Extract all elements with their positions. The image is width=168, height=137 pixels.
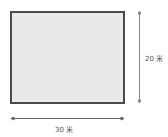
width-label: 30 米 [55,124,73,134]
dimension-arrows [0,0,168,137]
height-label: 20 米 [145,53,163,63]
height-dimension-arrow [138,11,141,103]
width-dimension-arrow [11,117,124,120]
